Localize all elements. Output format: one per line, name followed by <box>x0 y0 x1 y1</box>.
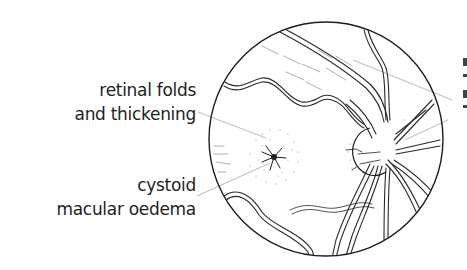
fundus-diagram: retinal folds and thickening cystoid mac… <box>0 0 467 270</box>
leader-retinal-folds <box>198 112 266 138</box>
leader-right-upper <box>353 60 452 100</box>
label-cystoid-macular-oedema: cystoid macular oedema <box>56 173 196 221</box>
truncated-label-fragment <box>463 90 467 98</box>
macular-star <box>249 129 298 184</box>
truncated-label-fragment <box>463 105 467 108</box>
label-cystoid-line2: macular oedema <box>56 197 196 221</box>
label-retinal-folds-line2: and thickening <box>75 102 196 126</box>
fundus-illustration <box>0 0 467 270</box>
label-retinal-folds: retinal folds and thickening <box>75 78 196 126</box>
label-cystoid-line1: cystoid <box>56 173 196 197</box>
label-retinal-folds-line1: retinal folds <box>75 78 196 102</box>
leader-cystoid-oedema <box>197 163 270 196</box>
leader-lines <box>197 60 452 196</box>
truncated-label-fragment <box>463 74 467 77</box>
truncated-label-fragment <box>463 58 467 66</box>
